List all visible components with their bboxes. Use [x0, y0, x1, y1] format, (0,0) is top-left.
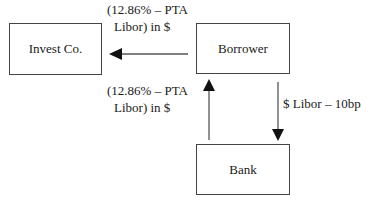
- edge-label-borrower-invest: (12.86% – PTA Libor) in $: [107, 1, 188, 35]
- edge-label-borrower-bank: $ Libor – 10bp: [283, 95, 361, 112]
- edge-label-line2: Libor) in $: [107, 18, 188, 35]
- arrow-bank-to-borrower: [203, 79, 215, 140]
- edge-label-bank-borrower: (12.86% – PTA Libor) in $: [107, 82, 188, 116]
- edge-label-line2: Libor) in $: [107, 99, 188, 116]
- edge-label-line1: (12.86% – PTA: [107, 82, 188, 99]
- edge-label-text: $ Libor – 10bp: [283, 96, 361, 111]
- arrow-borrower-to-invest: [109, 48, 188, 60]
- edge-label-line1: (12.86% – PTA: [107, 1, 188, 18]
